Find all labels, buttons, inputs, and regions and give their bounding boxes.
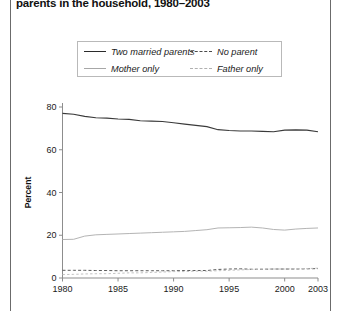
x-tick-label: 1995 bbox=[219, 284, 239, 294]
series-line-mother-only bbox=[63, 227, 319, 239]
y-tick-label: 60 bbox=[46, 145, 56, 155]
chart-axes bbox=[59, 103, 318, 282]
series-line-two-married-parents bbox=[63, 113, 319, 131]
y-tick-label: 20 bbox=[46, 230, 56, 240]
y-tick-label: 80 bbox=[46, 102, 56, 112]
x-tick-label: 1985 bbox=[108, 284, 128, 294]
x-tick-label: 1980 bbox=[52, 284, 72, 294]
y-axis-title: Percent bbox=[23, 177, 33, 209]
x-tick-label: 1990 bbox=[164, 284, 184, 294]
y-tick-label: 0 bbox=[51, 273, 56, 283]
y-tick-label: 40 bbox=[46, 188, 56, 198]
chart-series bbox=[63, 113, 319, 274]
x-tick-label: 2003 bbox=[308, 284, 328, 294]
chart-plot-area: 020406080198019851990199520002003Percent bbox=[0, 0, 344, 311]
chart-figure: parents in the household, 1980–2003 Two … bbox=[0, 0, 344, 311]
series-line-father-only bbox=[63, 268, 319, 274]
x-tick-label: 2000 bbox=[275, 284, 295, 294]
